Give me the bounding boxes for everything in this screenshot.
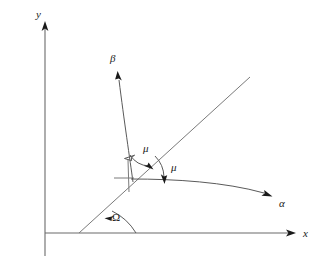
omega-label: Ω [112, 211, 120, 223]
x-axis-label: x [302, 227, 308, 239]
y-axis-label: y [35, 8, 41, 20]
angle-diagram: y x β α μ μ Ω [0, 0, 329, 274]
vertical-reference-segment [128, 160, 129, 192]
beta-curve-arrowhead [115, 71, 122, 81]
mu-upper-label: μ [142, 142, 149, 154]
beta-curve [119, 80, 133, 182]
beta-label: β [109, 52, 116, 64]
alpha-curve [131, 179, 264, 193]
mu-lower-label: μ [170, 161, 177, 173]
alpha-label: α [279, 197, 285, 209]
diagram-canvas: y x β α μ μ Ω [0, 0, 329, 274]
nodal-line [79, 77, 250, 233]
